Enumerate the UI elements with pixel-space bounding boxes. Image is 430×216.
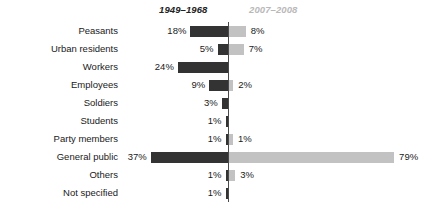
value-label-left: 3% bbox=[178, 94, 218, 112]
diverging-bar-chart: 1949–1968 2007–2008 Peasants18%8%Urban r… bbox=[0, 0, 430, 216]
bar-left-peasants bbox=[190, 26, 228, 37]
value-label-left: 1% bbox=[182, 130, 222, 148]
bar-left-general-public bbox=[151, 152, 228, 163]
value-label-right: 2% bbox=[238, 76, 278, 94]
chart-rows: Peasants18%8%Urban residents5%7%Workers2… bbox=[0, 22, 430, 202]
chart-row: Employees9%2% bbox=[0, 76, 430, 94]
bar-right-employees bbox=[229, 80, 233, 91]
chart-row: General public37%79% bbox=[0, 148, 430, 166]
value-label-left: 5% bbox=[174, 40, 214, 58]
value-label-right: 3% bbox=[240, 166, 280, 184]
chart-row: Workers24% bbox=[0, 58, 430, 76]
value-label-left: 9% bbox=[165, 76, 205, 94]
category-label: Soldiers bbox=[0, 94, 118, 112]
value-label-left: 1% bbox=[182, 184, 222, 202]
category-label: Employees bbox=[0, 76, 118, 94]
chart-legend: 1949–1968 2007–2008 bbox=[0, 4, 430, 20]
value-label-left: 1% bbox=[182, 112, 222, 130]
bar-left-workers bbox=[178, 62, 228, 73]
chart-row: Students1% bbox=[0, 112, 430, 130]
value-label-right: 7% bbox=[249, 40, 289, 58]
chart-row: Soldiers3% bbox=[0, 94, 430, 112]
value-label-left: 37% bbox=[107, 148, 147, 166]
bar-left-urban-residents bbox=[218, 44, 228, 55]
category-label: Peasants bbox=[0, 22, 118, 40]
value-label-left: 1% bbox=[182, 166, 222, 184]
bar-right-others bbox=[229, 170, 235, 181]
category-label: Workers bbox=[0, 58, 118, 76]
category-label: Not specified bbox=[0, 184, 118, 202]
chart-row: Others1%3% bbox=[0, 166, 430, 184]
value-label-left: 24% bbox=[134, 58, 174, 76]
bar-right-urban-residents bbox=[229, 44, 244, 55]
bar-right-party-members bbox=[229, 134, 233, 145]
bar-right-general-public bbox=[229, 152, 394, 163]
value-label-right: 8% bbox=[251, 22, 291, 40]
legend-label-1949-1968: 1949–1968 bbox=[159, 4, 207, 15]
value-label-right: 1% bbox=[238, 130, 278, 148]
category-label: General public bbox=[0, 148, 118, 166]
bar-left-others bbox=[226, 170, 229, 181]
category-label: Party members bbox=[0, 130, 118, 148]
bar-left-party-members bbox=[226, 134, 229, 145]
bar-left-employees bbox=[209, 80, 228, 91]
bar-left-students bbox=[226, 116, 229, 127]
bar-left-not-specified bbox=[226, 188, 229, 199]
chart-row: Not specified1% bbox=[0, 184, 430, 202]
chart-row: Party members1%1% bbox=[0, 130, 430, 148]
category-label: Urban residents bbox=[0, 40, 118, 58]
bar-right-peasants bbox=[229, 26, 246, 37]
value-label-right: 79% bbox=[399, 148, 430, 166]
value-label-left: 18% bbox=[146, 22, 186, 40]
bar-left-soldiers bbox=[222, 98, 228, 109]
category-label: Others bbox=[0, 166, 118, 184]
category-label: Students bbox=[0, 112, 118, 130]
chart-row: Urban residents5%7% bbox=[0, 40, 430, 58]
chart-row: Peasants18%8% bbox=[0, 22, 430, 40]
legend-label-2007-2008: 2007–2008 bbox=[249, 4, 297, 15]
